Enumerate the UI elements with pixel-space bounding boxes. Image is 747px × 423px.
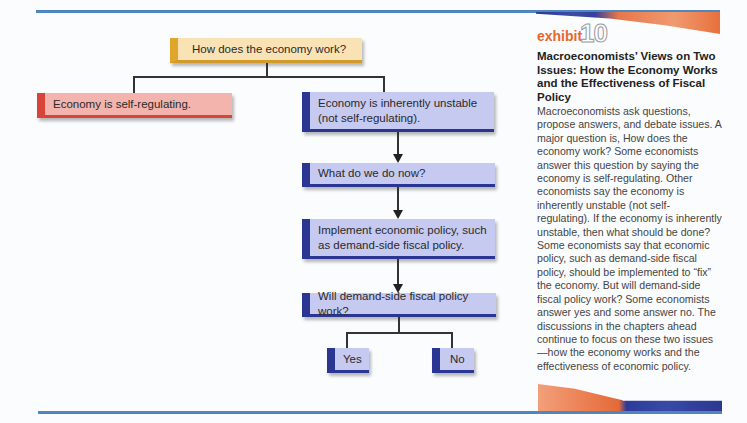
connector-arrow-3 — [397, 259, 399, 285]
connector-answers-horizontal — [346, 332, 452, 334]
inherently-unstable-box: Economy is inherently unstable (not self… — [302, 92, 494, 132]
yes-label: Yes — [335, 352, 362, 367]
connector-branch-horizontal — [133, 76, 384, 78]
connector-root-down — [266, 63, 268, 76]
will-policy-work-label: Will demand-side fiscal policy work? — [310, 289, 496, 319]
implement-policy-box: Implement economic policy, such as deman… — [302, 219, 495, 259]
no-label: No — [440, 352, 465, 367]
exhibit-caption: Macroeconomists ask questions, propose a… — [537, 105, 723, 373]
arrow-down-icon — [393, 154, 403, 163]
connector-arrow-1 — [397, 132, 399, 155]
connector-question-down — [398, 317, 400, 333]
self-regulating-label: Economy is self-regulating. — [45, 97, 191, 112]
implement-policy-label: Implement economic policy, such as deman… — [310, 223, 488, 253]
self-regulating-box: Economy is self-regulating. — [37, 93, 232, 118]
inherently-unstable-label: Economy is inherently unstable (not self… — [310, 96, 478, 126]
arrow-down-icon — [393, 210, 403, 219]
connector-yes-down — [346, 332, 348, 348]
exhibit-title: Macroeconomists’ Views on Two Issues: Ho… — [537, 50, 737, 104]
connector-left-down — [133, 76, 135, 93]
root-question-label: How does the economy work? — [178, 42, 346, 57]
what-now-label: What do we do now? — [310, 166, 425, 181]
connector-arrow-2 — [397, 187, 399, 211]
connector-right-down — [383, 76, 385, 92]
root-question-box: How does the economy work? — [170, 38, 362, 63]
bottom-rule — [38, 411, 722, 414]
connector-no-down — [451, 332, 453, 348]
yes-box: Yes — [327, 348, 369, 373]
what-now-box: What do we do now? — [302, 163, 495, 187]
exhibit-number: 10 — [580, 18, 607, 49]
bottom-gradient-banner — [538, 384, 722, 411]
will-policy-work-box: Will demand-side fiscal policy work? — [302, 293, 496, 317]
no-box: No — [432, 348, 474, 373]
exhibit-label: exhibit — [537, 28, 582, 44]
